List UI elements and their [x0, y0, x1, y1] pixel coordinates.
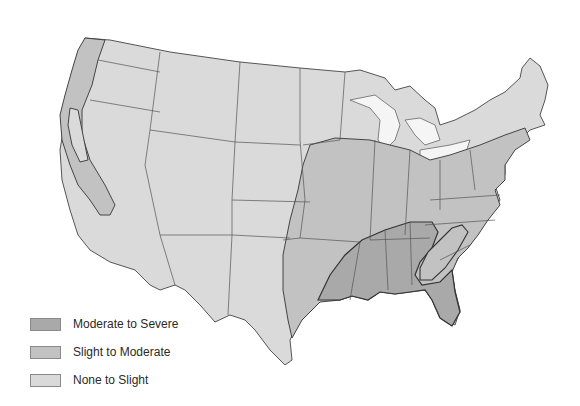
legend-label: Moderate to Severe [73, 317, 178, 331]
legend-label: None to Slight [73, 373, 148, 387]
legend-label: Slight to Moderate [73, 345, 170, 359]
legend-swatch-none-to-slight [30, 374, 61, 387]
legend-item-none-to-slight: None to Slight [30, 366, 178, 394]
legend-item-slight-to-moderate: Slight to Moderate [30, 338, 178, 366]
legend-swatch-slight-to-moderate [30, 346, 61, 359]
legend-swatch-moderate-to-severe [30, 318, 61, 331]
legend: Moderate to Severe Slight to Moderate No… [30, 310, 178, 394]
legend-item-moderate-to-severe: Moderate to Severe [30, 310, 178, 338]
